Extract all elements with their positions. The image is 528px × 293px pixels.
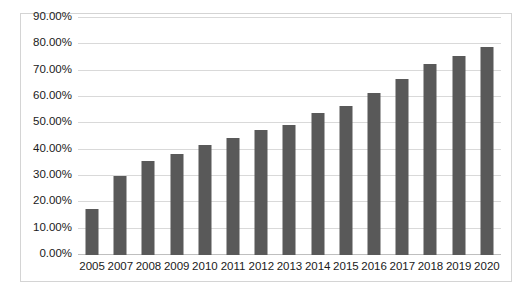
bar-2012[interactable] [255,130,268,255]
y-axis-tick-label: 30.00% [33,169,72,181]
bar-2017[interactable] [396,79,409,255]
x-axis-tick-label: 2016 [361,261,387,273]
x-axis-tick-label: 2018 [418,261,444,273]
chart-figure: 0.00%10.00%20.00%30.00%40.00%50.00%60.00… [20,13,512,282]
y-axis-tick-label: 50.00% [33,117,72,129]
bar-group-2011[interactable]: 2011 [219,18,247,255]
x-axis-tick-label: 2012 [248,261,274,273]
bar-2013[interactable] [283,125,296,255]
x-axis-tick-label: 2015 [333,261,359,273]
bars-group: 2005200720082009201020112012201320142015… [78,18,501,255]
y-axis-tick-label: 90.00% [33,11,72,23]
y-axis-tick-label: 70.00% [33,64,72,76]
bar-2007[interactable] [114,176,127,255]
bar-group-2015[interactable]: 2015 [332,18,360,255]
x-axis-tick-label: 2005 [79,261,105,273]
bar-group-2014[interactable]: 2014 [304,18,332,255]
y-axis-tick-label: 40.00% [33,143,72,155]
bar-2016[interactable] [368,93,381,255]
bar-2009[interactable] [170,154,183,255]
bar-group-2005[interactable]: 2005 [78,18,106,255]
x-axis-tick-label: 2010 [192,261,218,273]
bar-group-2013[interactable]: 2013 [275,18,303,255]
bar-group-2018[interactable]: 2018 [416,18,444,255]
x-axis-tick-label: 2014 [305,261,331,273]
x-axis-tick-label: 2017 [389,261,415,273]
x-axis-tick-label: 2013 [277,261,303,273]
bar-group-2020[interactable]: 2020 [473,18,501,255]
bar-2014[interactable] [311,113,324,255]
bar-group-2016[interactable]: 2016 [360,18,388,255]
plot-area: 0.00%10.00%20.00%30.00%40.00%50.00%60.00… [78,18,501,255]
bar-group-2019[interactable]: 2019 [445,18,473,255]
bar-2015[interactable] [339,106,352,255]
y-axis-tick-label: 80.00% [33,38,72,50]
bar-group-2009[interactable]: 2009 [163,18,191,255]
y-axis-tick-label: 60.00% [33,90,72,102]
bar-2010[interactable] [198,145,211,255]
x-axis-tick-label: 2011 [221,261,246,273]
x-axis-tick-label: 2008 [136,261,162,273]
bar-2018[interactable] [424,64,437,255]
x-axis-tick-label: 2009 [164,261,190,273]
bar-2005[interactable] [86,209,99,255]
bar-2011[interactable] [227,138,240,255]
x-axis-tick-label: 2019 [446,261,472,273]
bar-group-2010[interactable]: 2010 [191,18,219,255]
bar-2008[interactable] [142,161,155,255]
bar-group-2007[interactable]: 2007 [106,18,134,255]
x-axis-tick-label: 2020 [474,261,500,273]
bar-group-2017[interactable]: 2017 [388,18,416,255]
bar-2019[interactable] [452,56,465,255]
bar-2020[interactable] [480,47,493,255]
y-axis-tick-label: 10.00% [33,222,72,234]
y-axis-tick-label: 20.00% [33,196,72,208]
bar-group-2012[interactable]: 2012 [247,18,275,255]
x-axis-tick-label: 2007 [107,261,133,273]
bar-group-2008[interactable]: 2008 [134,18,162,255]
y-axis-tick-label: 0.00% [39,248,72,260]
